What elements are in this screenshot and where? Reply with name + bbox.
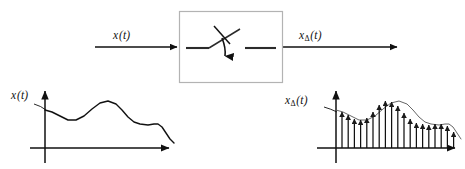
diagram-canvas bbox=[0, 0, 465, 169]
right-plot-label: xΔ(t) bbox=[285, 95, 308, 108]
right-plot-label-leader bbox=[324, 107, 337, 112]
right-plot-label-argument: (t) bbox=[296, 94, 307, 106]
output-label-argument: (t) bbox=[310, 29, 321, 41]
input-signal-label: x(t) bbox=[113, 30, 130, 43]
left-plot-label: x(t) bbox=[11, 90, 28, 103]
left-plot-label-argument: (t) bbox=[17, 89, 28, 101]
output-signal-label: xΔ(t) bbox=[299, 30, 322, 43]
left-plot-curve bbox=[45, 101, 174, 143]
input-label-argument: (t) bbox=[119, 29, 130, 41]
continuous-signal-plot bbox=[30, 91, 174, 163]
signal-flow-group bbox=[95, 12, 397, 83]
left-plot-label-leader bbox=[34, 104, 46, 110]
sampled-signal-plot bbox=[317, 91, 461, 163]
sampling-diagram-figure: x(t) xΔ(t) x(t) xΔ(t) bbox=[0, 0, 465, 169]
